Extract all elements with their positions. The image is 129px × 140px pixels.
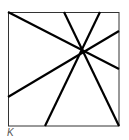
dividing-lines — [8, 12, 119, 126]
square-border — [9, 13, 120, 127]
diagram-canvas — [0, 0, 129, 140]
figure-label: K — [7, 128, 14, 138]
